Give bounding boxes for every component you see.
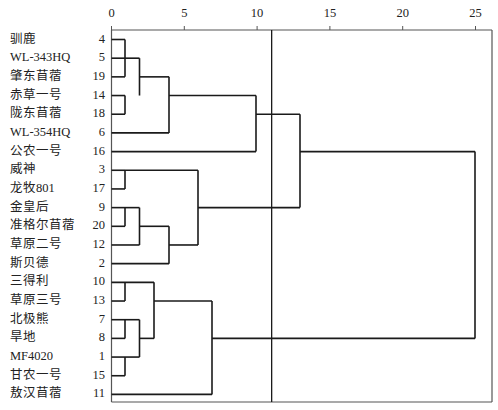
leaf-name: 甘农一号 [10, 368, 62, 382]
leaf-name: 旱地 [10, 330, 36, 344]
leaf-name: 陇东苜蓿 [10, 106, 62, 120]
leaf-id: 15 [93, 368, 106, 382]
x-tick-label: 10 [251, 6, 264, 20]
leaf-id: 2 [99, 256, 105, 270]
leaf-name: 草原二号 [10, 237, 62, 251]
leaf-id: 12 [93, 237, 106, 251]
leaf-name: 龙牧801 [10, 181, 55, 195]
leaf-id: 18 [93, 106, 106, 120]
leaf-name: 威神 [10, 162, 36, 176]
leaf-id: 20 [93, 218, 106, 232]
leaf-id: 16 [93, 144, 106, 158]
x-tick-label: 5 [181, 6, 187, 20]
x-tick-label: 25 [469, 6, 482, 20]
leaf-id: 4 [99, 32, 105, 46]
leaf-name: 肇东苜蓿 [10, 69, 62, 83]
dendrogram-svg [0, 0, 498, 410]
leaf-id: 3 [99, 162, 105, 176]
leaf-id: 5 [99, 50, 105, 64]
x-tick-label: 0 [108, 6, 114, 20]
leaf-id: 7 [99, 312, 105, 326]
leaf-id: 13 [93, 293, 106, 307]
leaf-name: 北极熊 [10, 312, 49, 326]
leaf-id: 9 [99, 200, 105, 214]
leaf-name: MF4020 [10, 349, 53, 363]
leaf-id: 19 [93, 69, 106, 83]
leaf-name: WL-354HQ [10, 125, 70, 139]
x-tick-label: 20 [396, 6, 409, 20]
leaf-name: 敖汉苜蓿 [10, 386, 62, 400]
leaf-name: 三得利 [10, 274, 49, 288]
leaf-id: 10 [93, 274, 106, 288]
leaf-name: WL-343HQ [10, 50, 70, 64]
leaf-id: 14 [93, 88, 106, 102]
leaf-name: 驯鹿 [10, 32, 36, 46]
leaf-id: 8 [99, 330, 105, 344]
leaf-name: 草原三号 [10, 293, 62, 307]
leaf-name: 赤草一号 [10, 88, 62, 102]
leaf-id: 1 [99, 349, 105, 363]
leaf-name: 金皇后 [10, 200, 49, 214]
leaf-name: 公农一号 [10, 144, 62, 158]
leaf-name: 斯贝德 [10, 256, 49, 270]
leaf-id: 11 [93, 386, 105, 400]
leaf-name: 准格尔苜蓿 [10, 218, 75, 232]
leaf-id: 17 [93, 181, 106, 195]
x-tick-label: 15 [324, 6, 337, 20]
leaf-id: 6 [99, 125, 105, 139]
